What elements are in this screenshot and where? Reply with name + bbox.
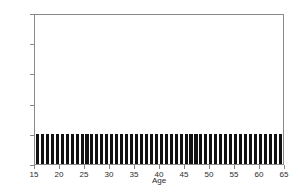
bar	[130, 134, 133, 164]
x-axis-tick-mark	[109, 165, 110, 169]
x-axis-tick-mark	[159, 165, 160, 169]
bar	[259, 134, 262, 164]
bar	[150, 134, 153, 164]
bar	[279, 134, 282, 164]
x-axis-tick-mark	[84, 165, 85, 169]
bar	[115, 134, 118, 164]
bar	[269, 134, 272, 164]
bar	[120, 134, 123, 164]
y-axis-tick-mark	[30, 74, 34, 75]
bar	[46, 134, 49, 164]
bar	[41, 134, 44, 164]
x-axis-tick-mark	[134, 165, 135, 169]
bar	[125, 134, 128, 164]
bar-slot	[278, 14, 283, 164]
bar	[244, 134, 247, 164]
bar	[100, 134, 103, 164]
bar	[90, 134, 93, 164]
bar	[219, 134, 222, 164]
y-axis-tick-mark	[30, 44, 34, 45]
bar	[61, 134, 64, 164]
bar	[199, 134, 202, 164]
bar	[51, 134, 54, 164]
y-axis-tick-mark	[30, 14, 34, 15]
bar	[56, 134, 59, 164]
x-axis-tick-mark	[34, 165, 35, 169]
bar	[85, 134, 88, 164]
bar	[229, 134, 232, 164]
bar	[95, 134, 98, 164]
chart-container: 0%2%4%6%8%10% 1520253035404550556065 Age	[0, 0, 298, 193]
bar-series	[35, 14, 283, 164]
x-axis-tick-mark	[184, 165, 185, 169]
x-axis-tick-mark	[59, 165, 60, 169]
bar	[175, 134, 178, 164]
bar	[76, 134, 79, 164]
bar	[145, 134, 148, 164]
plot-area	[34, 14, 284, 165]
bar	[180, 134, 183, 164]
bar	[209, 134, 212, 164]
bar	[170, 134, 173, 164]
x-axis-tick-mark	[259, 165, 260, 169]
x-axis-tick-mark	[234, 165, 235, 169]
bar	[81, 134, 84, 164]
bar	[239, 134, 242, 164]
bar	[254, 134, 257, 164]
bar	[204, 134, 207, 164]
bar	[140, 134, 143, 164]
bar	[36, 134, 39, 164]
bar	[189, 134, 192, 164]
bar	[194, 134, 197, 164]
bar	[155, 134, 158, 164]
bar	[185, 134, 188, 164]
bar	[71, 134, 74, 164]
x-axis-title: Age	[34, 176, 284, 185]
y-axis-tick-mark	[30, 135, 34, 136]
bar	[249, 134, 252, 164]
bar	[264, 134, 267, 164]
y-axis-tick-mark	[30, 105, 34, 106]
bar	[135, 134, 138, 164]
bar	[274, 134, 277, 164]
bar	[66, 134, 69, 164]
bar	[224, 134, 227, 164]
bar	[165, 134, 168, 164]
bar	[160, 134, 163, 164]
bar	[110, 134, 113, 164]
bar	[234, 134, 237, 164]
bar	[105, 134, 108, 164]
x-axis-tick-mark	[284, 165, 285, 169]
bar	[214, 134, 217, 164]
x-axis-tick-mark	[209, 165, 210, 169]
